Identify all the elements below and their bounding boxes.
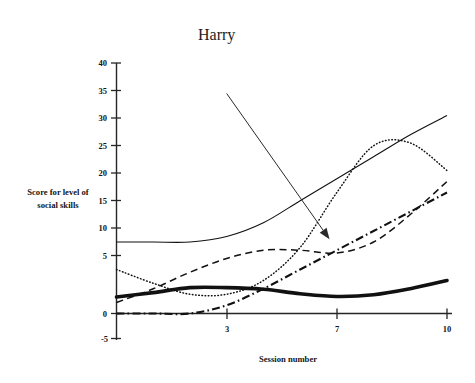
series-dash-dot-line <box>117 193 448 315</box>
series-group <box>117 116 448 315</box>
y-tick-label-25: 25 <box>99 141 108 151</box>
x-tick-label-7: 7 <box>335 324 340 334</box>
x-tick-label-3: 3 <box>225 324 229 334</box>
y-tick-label-neg5: -5 <box>101 334 108 344</box>
harry-annotation-arrowhead <box>320 228 330 239</box>
x-axis-title: Session number <box>259 354 317 364</box>
x-axis-tick-labels: 3 7 10 <box>225 324 451 334</box>
y-axis-title-line1: Score for level of <box>27 187 89 197</box>
social-skills-line-chart: 40 35 30 25 20 15 10 5 0 -5 3 7 10 Score… <box>0 0 475 383</box>
y-axis-title-line2: social skills <box>37 200 79 210</box>
y-tick-label-0: 0 <box>103 309 107 319</box>
y-tick-label-40: 40 <box>99 58 108 68</box>
y-axis-tick-labels: 40 35 30 25 20 15 10 5 0 -5 <box>99 58 109 344</box>
y-tick-label-20: 20 <box>99 168 108 178</box>
series-solid-line <box>117 116 448 243</box>
harry-annotation: Harry <box>198 26 329 239</box>
y-tick-label-35: 35 <box>99 86 108 96</box>
series-thick-textured-line <box>117 281 448 298</box>
axes <box>117 63 453 340</box>
harry-annotation-arrow-line <box>227 94 323 231</box>
y-tick-label-30: 30 <box>99 113 108 123</box>
y-tick-label-15: 15 <box>99 196 108 206</box>
series-fine-dotted-line <box>117 140 448 296</box>
harry-annotation-label: Harry <box>198 26 235 44</box>
y-tick-label-10: 10 <box>99 223 108 233</box>
x-tick-label-10: 10 <box>443 324 452 334</box>
chart-figure: 40 35 30 25 20 15 10 5 0 -5 3 7 10 Score… <box>0 0 475 383</box>
y-tick-label-5: 5 <box>103 251 107 261</box>
